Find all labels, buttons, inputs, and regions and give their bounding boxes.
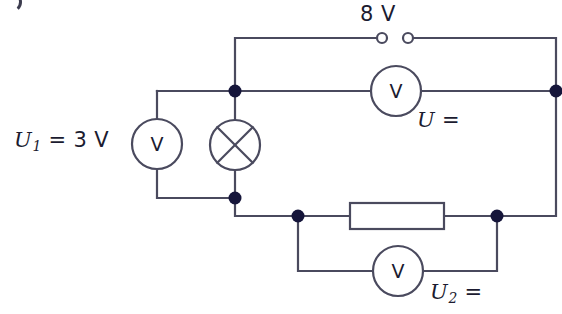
u2-label: U2 = <box>430 282 483 306</box>
u1-equals: = <box>49 128 67 152</box>
u1-value: 3 V <box>74 128 109 152</box>
wire-source-right <box>409 38 556 91</box>
u1-symbol: U <box>14 128 32 152</box>
u2-subscript: 2 <box>448 290 458 306</box>
u2-equals: = <box>465 280 483 304</box>
junction-dot-top-left <box>229 85 242 98</box>
wire-source-left <box>235 38 381 91</box>
source-terminal-left <box>377 33 387 43</box>
u2-symbol: U <box>430 280 448 304</box>
u-symbol: U <box>417 108 435 132</box>
u1-subscript: 1 <box>32 138 42 154</box>
junction-dot-bottom-left <box>292 210 305 223</box>
voltmeter-u2-letter: V <box>392 260 405 282</box>
circuit-diagram-canvas: V V V 8 V U1 = 3 V U = U2 = <box>0 0 562 314</box>
source-voltage-label: 8 V <box>360 4 396 25</box>
u-equals: = <box>442 108 460 132</box>
u1-label: U1 = 3 V <box>14 130 109 154</box>
wire-u1-bottom <box>157 169 235 198</box>
junction-dot-bottom-right <box>491 210 504 223</box>
circuit-schematic: V V V <box>0 0 562 314</box>
source-terminal-right <box>403 33 413 43</box>
resistor-body <box>350 203 444 229</box>
u-label: U = <box>417 110 460 131</box>
wire-bottom-right-rail <box>444 91 556 216</box>
junction-dot-mid-left <box>229 192 242 205</box>
voltmeter-u1-letter: V <box>151 133 164 155</box>
voltmeter-u-letter: V <box>390 80 403 102</box>
junction-dot-top-right <box>550 85 562 98</box>
